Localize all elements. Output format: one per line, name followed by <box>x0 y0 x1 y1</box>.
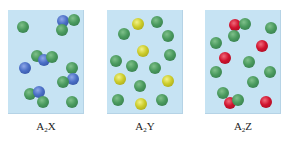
atom-a-icon <box>57 76 69 88</box>
atom-y-icon <box>135 98 147 110</box>
atom-a-icon <box>210 37 222 49</box>
atom-a-icon <box>37 96 49 108</box>
atom-a-icon <box>46 51 58 63</box>
atom-a-icon <box>210 66 222 78</box>
atom-y-icon <box>137 45 149 57</box>
atom-a-icon <box>156 94 168 106</box>
atom-a-icon <box>126 60 138 72</box>
atom-a-icon <box>149 62 161 74</box>
atom-a-icon <box>264 66 276 78</box>
atom-a-icon <box>118 28 130 40</box>
atom-a-icon <box>17 21 29 33</box>
atom-y-icon <box>132 18 144 30</box>
atom-a-icon <box>110 55 122 67</box>
panel-a2x <box>8 10 84 114</box>
label-element: A <box>234 120 242 132</box>
atom-a-icon <box>68 14 80 26</box>
atom-a-icon <box>66 96 78 108</box>
atom-z-icon <box>219 52 231 64</box>
atom-a-icon <box>239 18 251 30</box>
atom-a-icon <box>247 76 259 88</box>
atom-z-icon <box>260 96 272 108</box>
atom-y-icon <box>114 73 126 85</box>
atom-a-icon <box>162 30 174 42</box>
atom-a-icon <box>164 49 176 61</box>
atom-z-icon <box>256 40 268 52</box>
panel-label-a2y: A2Y <box>107 120 183 134</box>
panel-a2z <box>205 10 281 114</box>
atom-a-icon <box>112 94 124 106</box>
atom-a-icon <box>134 80 146 92</box>
label-element-tail: X <box>48 120 56 132</box>
label-element-tail: Z <box>245 120 252 132</box>
panel-a2y <box>107 10 183 114</box>
atom-a-icon <box>232 94 244 106</box>
panel-label-a2z: A2Z <box>205 120 281 134</box>
atom-y-icon <box>162 75 174 87</box>
atom-a-icon <box>243 56 255 68</box>
atom-a-icon <box>151 16 163 28</box>
panel-label-a2x: A2X <box>8 120 84 134</box>
atom-a-icon <box>56 24 68 36</box>
atom-a-icon <box>228 30 240 42</box>
atom-x-icon <box>19 62 31 74</box>
atom-a-icon <box>265 22 277 34</box>
label-element-tail: Y <box>147 120 155 132</box>
